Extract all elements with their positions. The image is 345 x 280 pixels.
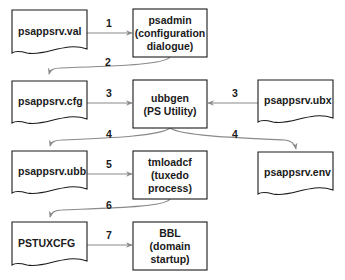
edge-label: 1 <box>106 17 112 29</box>
node-cfg: psappsrv.cfg <box>12 81 87 124</box>
node-label: psappsrv.ubx <box>264 94 332 106</box>
node-label: dialogue) <box>147 40 194 52</box>
edge-ubbgen-to-env: 4 <box>170 128 296 149</box>
edge-label: 4 <box>106 128 112 140</box>
node-bbl: BBL(domainstartup) <box>133 222 207 270</box>
node-psadmin: psadmin(configurationdialogue) <box>133 9 207 57</box>
node-ubbgen: ubbgen(PS Utility) <box>133 80 207 128</box>
node-label: psappsrv.cfg <box>18 95 83 107</box>
node-tmloadcf: tmloadcf(tuxedoprocess) <box>133 151 207 199</box>
node-ubx: psappsrv.ubx <box>258 80 333 123</box>
node-label: psadmin <box>148 14 191 26</box>
node-pstuxcfg: PSTUXCFG <box>12 222 87 266</box>
edge-label: 6 <box>106 199 112 211</box>
edge-label: 2 <box>105 56 111 68</box>
node-label: tmloadcf <box>148 156 192 168</box>
edge-psadmin-to-cfg: 2 <box>49 56 170 74</box>
edge-ubb-to-tmloadcf: 5 <box>87 158 132 174</box>
node-label: ubbgen <box>151 92 189 104</box>
edge-tmloadcf-to-pstuxcfg: 6 <box>50 199 170 217</box>
node-label: (PS Utility) <box>143 105 196 117</box>
node-val: psappsrv.val <box>12 10 87 54</box>
node-label: psappsrv.env <box>264 166 331 178</box>
node-label: psappsrv.val <box>18 25 82 37</box>
node-ubb: psappsrv.ubb <box>12 151 87 194</box>
node-label: (tuxedo <box>151 169 189 181</box>
edge-label: 3 <box>106 87 112 99</box>
edge-val-to-psadmin: 1 <box>87 17 132 33</box>
node-label: (configuration <box>135 27 206 39</box>
node-label: BBL <box>159 227 181 239</box>
node-label: psappsrv.ubb <box>18 165 86 177</box>
edge-ubx-to-ubbgen: 3 <box>208 87 258 103</box>
node-label: (domain <box>150 240 191 252</box>
node-env: psappsrv.env <box>258 152 333 195</box>
edge-pstuxcfg-to-bbl: 7 <box>87 229 132 245</box>
node-label: process) <box>148 182 192 194</box>
edge-cfg-to-ubbgen: 3 <box>87 87 132 103</box>
node-label: startup) <box>150 253 189 265</box>
edge-label: 7 <box>106 229 112 241</box>
edge-label: 5 <box>106 158 112 170</box>
edge-label: 3 <box>232 87 238 99</box>
flow-diagram: 123344567 psappsrv.valpsadmin(configurat… <box>0 0 345 280</box>
edge-label: 4 <box>232 128 238 140</box>
edge-ubbgen-to-ubb: 4 <box>50 128 170 146</box>
node-label: PSTUXCFG <box>18 237 75 249</box>
